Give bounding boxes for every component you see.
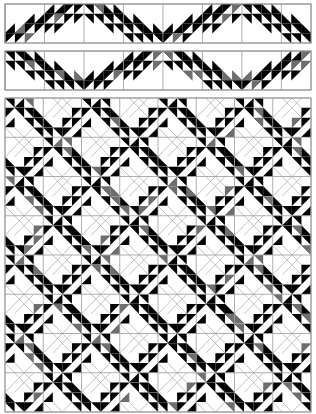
main-quilt — [5, 98, 311, 412]
top-border-strip-2 — [5, 51, 311, 90]
top-border-strip-1 — [5, 4, 311, 43]
quilt-canvas — [0, 0, 316, 414]
